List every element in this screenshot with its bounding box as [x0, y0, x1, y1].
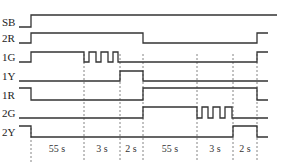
duration-label: 2 s — [239, 143, 251, 154]
signal-label-1g: 1G — [2, 51, 16, 63]
waveform-1g — [19, 52, 268, 62]
waveform-2g — [19, 107, 268, 118]
duration-labels: 55 s3 s2 s55 s3 s2 s — [49, 143, 251, 154]
waveform-2r — [19, 33, 268, 43]
duration-label: 55 s — [49, 143, 66, 154]
duration-label: 55 s — [162, 143, 179, 154]
signal-label-sb: SB — [2, 16, 15, 28]
waveform-1y — [19, 71, 268, 81]
waveform-2y — [19, 126, 268, 137]
duration-label: 3 s — [209, 143, 221, 154]
waveform-sb — [19, 15, 277, 27]
signal-label-1r: 1R — [2, 89, 16, 101]
duration-label: 2 s — [125, 143, 137, 154]
signal-label-2g: 2G — [2, 107, 16, 119]
signal-labels: SB2R1G1Y1R2G2Y — [2, 16, 16, 138]
signal-waveforms — [19, 15, 277, 137]
waveform-1r — [19, 88, 268, 100]
signal-label-2r: 2R — [2, 32, 16, 44]
signal-label-1y: 1Y — [2, 70, 16, 82]
timing-diagram: SB2R1G1Y1R2G2Y 55 s3 s2 s55 s3 s2 s — [0, 0, 282, 166]
signal-label-2y: 2Y — [2, 126, 16, 138]
duration-label: 3 s — [96, 143, 108, 154]
